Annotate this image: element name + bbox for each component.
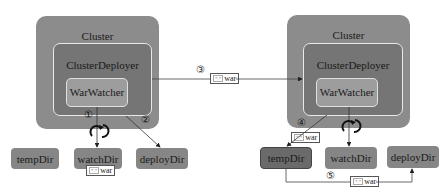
left-deploy-arrow [126,116,160,147]
right-move-arrow-end [376,169,412,182]
connector-layer [0,0,441,192]
right-move-arrow [286,169,350,182]
left-refresh-icon [90,125,108,137]
right-refresh-icon [342,120,360,132]
right-temp-arrow [287,115,327,146]
